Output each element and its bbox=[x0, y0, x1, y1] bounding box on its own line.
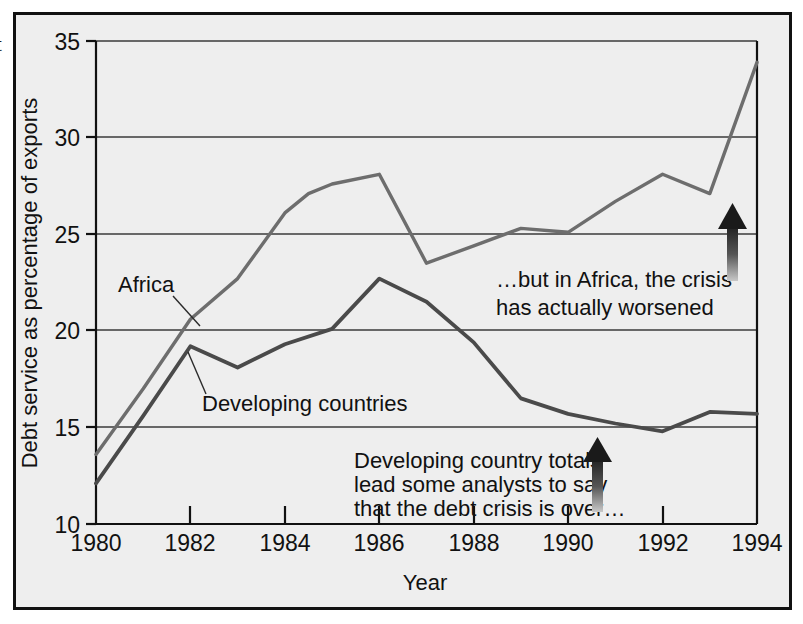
y-axis-title: Debt service as percentage of exports bbox=[17, 98, 42, 469]
series-label-developing: Developing countries bbox=[202, 391, 407, 416]
y-tick-label: 20 bbox=[54, 318, 80, 344]
annotation-developing-line-3: that the debt crisis is over… bbox=[354, 496, 625, 521]
x-axis-title: Year bbox=[403, 570, 447, 595]
series-label-africa: Africa bbox=[118, 272, 175, 297]
y-tick-label: 25 bbox=[54, 222, 80, 248]
x-tick-label: 1994 bbox=[731, 530, 782, 556]
annotation-developing: Developing country totals lead some anal… bbox=[354, 437, 625, 521]
annotation-africa: …but in Africa, the crisis has actually … bbox=[496, 203, 747, 320]
leader-line-developing bbox=[188, 352, 206, 394]
x-tick-label: 1992 bbox=[637, 530, 688, 556]
leader-line-africa bbox=[173, 296, 200, 326]
x-tick-label: 1982 bbox=[164, 530, 215, 556]
x-tick-label: 1980 bbox=[70, 530, 121, 556]
x-tick-labels: 1980 1982 1984 1986 1988 1990 1992 1994 bbox=[70, 530, 782, 556]
annotation-developing-line-1: Developing country totals bbox=[354, 448, 601, 473]
series-line-africa bbox=[96, 62, 757, 454]
x-tick-label: 1988 bbox=[448, 530, 499, 556]
x-tick-label: 1990 bbox=[542, 530, 593, 556]
y-tick-label: 15 bbox=[54, 415, 80, 441]
y-tick-labels: 35 30 25 20 15 10 bbox=[54, 29, 80, 538]
y-tick-marks bbox=[86, 41, 96, 524]
y-tick-label: 30 bbox=[54, 125, 80, 151]
annotation-developing-line-2: lead some analysts to say bbox=[354, 472, 607, 497]
y-tick-label: 35 bbox=[54, 29, 80, 55]
annotation-africa-line-2: has actually worsened bbox=[496, 295, 714, 320]
annotation-africa-line-1: …but in Africa, the crisis bbox=[496, 267, 732, 292]
figure-page: t Debt service as percentage of exports bbox=[0, 0, 803, 624]
x-tick-label: 1984 bbox=[259, 530, 310, 556]
line-chart: Debt service as percentage of exports bbox=[0, 0, 803, 624]
x-tick-label: 1986 bbox=[353, 530, 404, 556]
